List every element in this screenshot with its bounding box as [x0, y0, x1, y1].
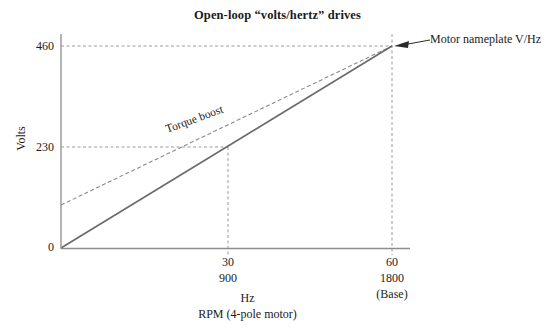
series-torque-boost-line [61, 46, 392, 205]
y-tick-label-460: 460 [18, 39, 54, 54]
x-tick-label-hz-30: 30 [198, 255, 258, 270]
x-axis-label-hz: Hz [0, 291, 495, 306]
x-axis-label-rpm: RPM (4-pole motor) [0, 307, 495, 322]
x-tick-label-rpm-900: 900 [198, 271, 258, 286]
y-axis-label: Volts [14, 114, 29, 164]
annotation-motor-nameplate: Motor nameplate V/Hz [430, 32, 541, 47]
nameplate-arrowhead-icon [394, 41, 409, 48]
x-tick-label-rpm-1800: 1800 [362, 271, 422, 286]
nameplate-annotation-leader [408, 40, 430, 44]
chart-figure: Open-loop “volts/hertz” drives 460 230 0… [0, 0, 555, 333]
y-tick-label-0: 0 [18, 240, 54, 255]
x-tick-label-hz-60: 60 [362, 255, 422, 270]
plot-area [0, 0, 555, 333]
